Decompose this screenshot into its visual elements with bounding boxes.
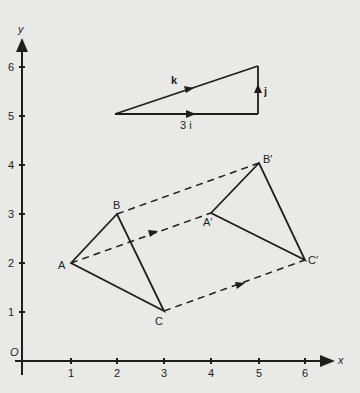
y-axis-arrow-icon: [16, 38, 28, 52]
translation-arrow-icon: [235, 282, 245, 289]
x-tick-label: 4: [208, 367, 214, 379]
y-tick-label: 2: [8, 257, 14, 269]
translation-diagram: y x O 1 2 3 4 5 6 1 2 3 4 5 6 k j 3 i A …: [0, 0, 360, 393]
k-label: k: [171, 74, 178, 86]
translation-arrow-icon: [148, 230, 158, 237]
point-a-label: A: [58, 259, 66, 271]
point-b-label: B: [113, 199, 120, 211]
x-tick-label: 3: [161, 367, 167, 379]
y-tick-label: 3: [8, 208, 14, 220]
x-axis-label: x: [337, 354, 344, 366]
i-label: 3 i: [180, 119, 192, 131]
point-b-prime-label: B′: [263, 153, 272, 165]
y-tick-label: 4: [8, 159, 14, 171]
triangle-a-prime-b-prime-c-prime: [211, 163, 305, 260]
y-tick-label: 5: [8, 110, 14, 122]
x-tick-label: 1: [68, 367, 74, 379]
point-c-label: C: [155, 315, 163, 327]
j-label: j: [263, 85, 267, 97]
x-tick-label: 5: [256, 367, 262, 379]
i-arrow-icon: [186, 110, 196, 118]
x-tick-label: 2: [114, 367, 120, 379]
y-tick-label: 1: [8, 306, 14, 318]
y-tick-label: 6: [8, 61, 14, 73]
x-tick-label: 6: [302, 367, 308, 379]
triangle-abc: [71, 214, 164, 311]
point-c-prime-label: C′: [308, 254, 318, 266]
point-a-prime-label: A′: [203, 216, 212, 228]
x-axis-arrow-icon: [320, 355, 335, 367]
j-arrow-icon: [254, 84, 262, 93]
y-axis-label: y: [17, 23, 25, 35]
y-axis: [16, 38, 28, 375]
x-axis: [15, 355, 335, 367]
origin-label: O: [10, 346, 19, 358]
